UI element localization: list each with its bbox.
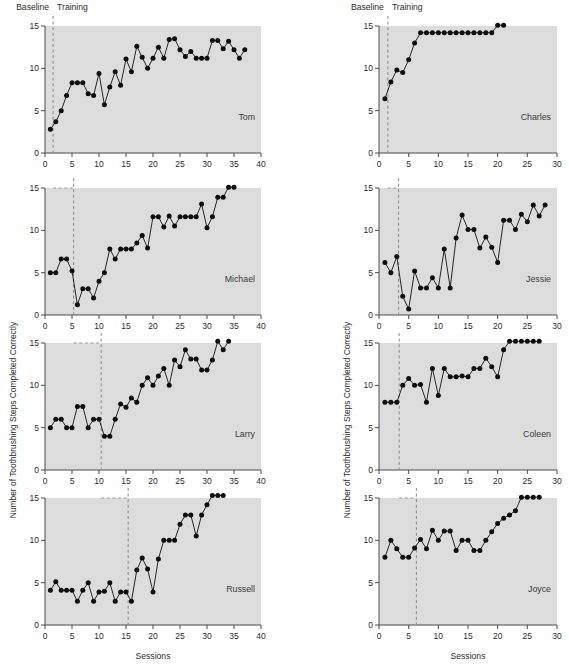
data-point — [501, 23, 506, 28]
y-tick-label-coleen-5: 5 — [368, 423, 373, 433]
y-tick-label-charles-15: 15 — [364, 21, 374, 31]
data-point — [129, 396, 134, 401]
subject-label-charles: Charles — [521, 112, 552, 122]
data-point — [537, 339, 542, 344]
phase-label-training-right: Training — [392, 2, 423, 12]
data-point — [199, 368, 204, 373]
x-tick-label-coleen-0: 0 — [377, 476, 382, 486]
data-point — [388, 79, 393, 84]
phase-label-baseline-left: Baseline — [16, 2, 49, 12]
data-point — [161, 56, 166, 61]
data-point — [388, 400, 393, 405]
data-point — [48, 270, 53, 275]
data-point — [418, 537, 423, 542]
data-point — [91, 296, 96, 301]
data-point — [221, 195, 226, 200]
panel-michael: 0510150510152025303540Michael — [30, 178, 266, 331]
data-point — [466, 538, 471, 543]
data-point — [183, 512, 188, 517]
data-point — [388, 538, 393, 543]
y-tick-label-tom-15: 15 — [30, 21, 40, 31]
x-tick-label-charles-5: 5 — [406, 159, 411, 169]
panel-background-jessie — [379, 188, 557, 315]
data-point — [188, 214, 193, 219]
data-point — [194, 56, 199, 61]
panel-background-russell — [45, 498, 261, 625]
x-tick-label-tom-10: 10 — [94, 159, 104, 169]
data-point — [140, 556, 145, 561]
x-tick-label-coleen-10: 10 — [434, 476, 444, 486]
data-point — [156, 374, 161, 379]
data-point — [188, 49, 193, 54]
data-point — [134, 44, 139, 49]
data-point — [86, 91, 91, 96]
data-point — [466, 30, 471, 35]
data-point — [145, 375, 150, 380]
x-tick-label-larry-35: 35 — [229, 476, 239, 486]
data-point — [460, 538, 465, 543]
data-point — [483, 30, 488, 35]
data-point — [507, 512, 512, 517]
data-point — [140, 233, 145, 238]
data-point — [167, 383, 172, 388]
data-point — [199, 512, 204, 517]
data-point — [107, 580, 112, 585]
x-tick-label-joyce-15: 15 — [463, 631, 473, 641]
data-point — [226, 185, 231, 190]
x-tick-label-joyce-25: 25 — [523, 631, 533, 641]
data-point — [194, 534, 199, 539]
x-tick-label-russell-20: 20 — [148, 631, 158, 641]
panel-russell: 0510150510152025303540Russell — [30, 488, 266, 641]
data-point — [489, 529, 494, 534]
data-point — [501, 218, 506, 223]
y-tick-label-russell-5: 5 — [34, 578, 39, 588]
data-point — [489, 364, 494, 369]
data-point — [107, 434, 112, 439]
data-point — [537, 213, 542, 218]
data-point — [221, 46, 226, 51]
data-point — [59, 108, 64, 113]
x-tick-label-michael-35: 35 — [229, 321, 239, 331]
data-point — [102, 589, 107, 594]
data-point — [412, 268, 417, 273]
data-point — [460, 374, 465, 379]
y-tick-label-tom-10: 10 — [30, 63, 40, 73]
data-point — [172, 538, 177, 543]
data-point — [118, 401, 123, 406]
y-tick-label-joyce-5: 5 — [368, 578, 373, 588]
data-point — [221, 493, 226, 498]
data-point — [430, 275, 435, 280]
x-tick-label-michael-30: 30 — [202, 321, 212, 331]
multiple-baseline-figure: 0510150510152025303540Tom051015051015202… — [0, 0, 569, 666]
data-point — [113, 599, 118, 604]
data-point — [70, 80, 75, 85]
data-point — [151, 56, 156, 61]
data-point — [107, 246, 112, 251]
data-point — [448, 30, 453, 35]
y-tick-label-coleen-15: 15 — [364, 338, 374, 348]
data-point — [194, 214, 199, 219]
data-point — [53, 417, 58, 422]
panel-charles: 051015051015202530Charles — [364, 16, 562, 169]
data-point — [151, 589, 156, 594]
data-point — [178, 214, 183, 219]
data-point — [436, 538, 441, 543]
data-point — [525, 219, 530, 224]
data-point — [107, 84, 112, 89]
data-point — [454, 30, 459, 35]
data-point — [64, 425, 69, 430]
data-point — [172, 224, 177, 229]
x-tick-label-larry-40: 40 — [256, 476, 266, 486]
data-point — [194, 357, 199, 362]
panel-joyce: 051015051015202530Joyce — [364, 488, 562, 641]
data-point — [118, 246, 123, 251]
data-point — [97, 417, 102, 422]
data-point — [442, 366, 447, 371]
data-point — [140, 383, 145, 388]
x-tick-label-joyce-5: 5 — [406, 631, 411, 641]
x-tick-label-tom-30: 30 — [202, 159, 212, 169]
data-point — [489, 245, 494, 250]
data-point — [205, 56, 210, 61]
y-tick-label-tom-5: 5 — [34, 106, 39, 116]
data-point — [477, 30, 482, 35]
